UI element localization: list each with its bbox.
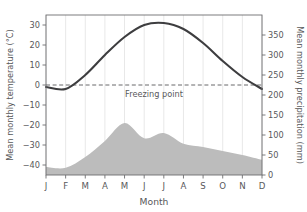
left-tick-label--40: −40: [23, 160, 40, 170]
left-tick-label--30: −30: [23, 140, 40, 150]
right-tick-label-250: 250: [268, 70, 284, 80]
right-tick-label-150: 150: [268, 110, 284, 120]
chart-canvas: 3020100−10−20−30−40 05010015020025030035…: [0, 0, 307, 212]
left-axis: 3020100−10−20−30−40: [23, 20, 46, 170]
right-tick-label-200: 200: [268, 90, 284, 100]
left-tick-label-10: 10: [30, 60, 40, 70]
month-label-3: A: [102, 181, 108, 191]
month-label-9: O: [219, 181, 226, 191]
month-label-4: M: [121, 181, 128, 191]
left-axis-title: Mean monthly temperature (°C): [5, 29, 15, 160]
right-tick-label-350: 350: [268, 30, 284, 40]
right-tick-label-50: 50: [268, 150, 278, 160]
month-label-2: M: [82, 181, 89, 191]
right-tick-label-0: 0: [268, 170, 273, 180]
month-label-7: A: [181, 181, 187, 191]
right-axis-title: Mean monthly precipitation (mm): [295, 26, 305, 164]
climate-graph: 3020100−10−20−30−40 05010015020025030035…: [0, 0, 307, 212]
month-label-10: N: [239, 181, 245, 191]
left-tick-label--10: −10: [23, 100, 40, 110]
left-tick-label-0: 0: [35, 80, 40, 90]
month-label-8: S: [200, 181, 205, 191]
bottom-axis: JFMAMJJASOND: [44, 175, 266, 191]
left-tick-label-30: 30: [30, 20, 40, 30]
month-label-1: F: [63, 181, 68, 191]
right-axis: 050100150200250300350: [262, 30, 284, 180]
left-tick-label-20: 20: [30, 40, 40, 50]
x-axis-title: Month: [140, 196, 169, 207]
month-label-6: J: [162, 181, 166, 191]
freezing-point-label: Freezing point: [125, 89, 184, 99]
right-tick-label-300: 300: [268, 50, 284, 60]
left-tick-label--20: −20: [23, 120, 40, 130]
month-label-5: J: [142, 181, 146, 191]
right-tick-label-100: 100: [268, 130, 284, 140]
month-label-0: J: [44, 181, 48, 191]
month-label-11: D: [259, 181, 266, 191]
